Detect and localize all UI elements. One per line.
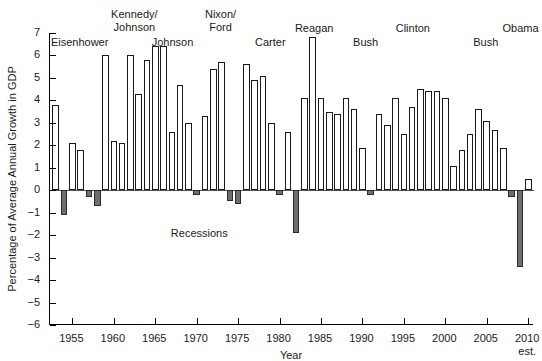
y-tick — [50, 235, 56, 236]
bar-1973 — [218, 62, 225, 190]
bar-1980 — [276, 190, 283, 194]
x-tick-label: 1970 — [183, 332, 207, 344]
x-tick — [155, 318, 156, 324]
y-tick-label: 2 — [34, 139, 40, 150]
bar-1979 — [268, 123, 275, 190]
x-tick-label: 1995 — [391, 332, 415, 344]
y-tick — [50, 303, 56, 304]
y-tick — [50, 100, 56, 101]
x-tick-label: 1985 — [308, 332, 332, 344]
era-label-clinton: Clinton — [396, 22, 430, 35]
y-tick-label: −1 — [27, 207, 40, 218]
y-tick — [50, 168, 56, 169]
era-label-line: Bush — [473, 36, 498, 49]
era-label-carter: Carter — [255, 36, 286, 49]
bar-1983 — [301, 98, 308, 190]
x-tick-label: 2010 — [515, 332, 539, 344]
era-label-johnson: Johnson — [152, 36, 194, 49]
bar-1957 — [86, 190, 93, 197]
bar-1990 — [359, 148, 366, 191]
x-tick — [280, 318, 281, 324]
bar-2000 — [442, 98, 449, 190]
x-tick — [197, 318, 198, 324]
bar-1985 — [318, 98, 325, 190]
bar-1982 — [293, 190, 300, 233]
x-tick — [321, 318, 322, 324]
y-tick — [50, 280, 56, 281]
bar-1987 — [334, 114, 341, 190]
x-tick-label: 2000 — [432, 332, 456, 344]
y-tick-label: 3 — [34, 117, 40, 128]
bar-1996 — [409, 107, 416, 190]
x-tick — [114, 318, 115, 324]
bar-1992 — [376, 114, 383, 190]
bar-1997 — [417, 89, 424, 190]
y-tick — [50, 213, 56, 214]
era-label-line: Nixon/ — [205, 8, 236, 21]
bar-2006 — [492, 130, 499, 191]
bar-1998 — [425, 91, 432, 190]
era-label-eisenhower: Eisenhower — [51, 36, 108, 49]
y-tick-label: 1 — [34, 162, 40, 173]
era-label-kennedy-johnson: Kennedy/Johnson — [111, 8, 157, 33]
x-tick-label: 1965 — [142, 332, 166, 344]
bar-2009 — [517, 190, 524, 266]
x-tick-label: 1980 — [266, 332, 290, 344]
bar-1989 — [351, 109, 358, 190]
y-tick — [50, 258, 56, 259]
x-tick-label: 1960 — [101, 332, 125, 344]
era-label-line: Obama — [503, 22, 539, 35]
era-label-line: Reagan — [295, 22, 334, 35]
bar-1953 — [52, 105, 59, 190]
bar-1962 — [127, 55, 134, 190]
bar-1971 — [202, 116, 209, 190]
bar-1977 — [251, 80, 258, 190]
bar-1981 — [285, 132, 292, 190]
y-tick-label: −5 — [27, 297, 40, 308]
y-tick — [50, 78, 56, 79]
bar-1994 — [392, 98, 399, 190]
bar-2001 — [450, 166, 457, 191]
bar-1999 — [434, 91, 441, 190]
bar-1975 — [235, 190, 242, 203]
bar-2010 — [525, 179, 532, 190]
y-tick-label: 4 — [34, 94, 40, 105]
bar-1955 — [69, 143, 76, 190]
bar-1967 — [169, 132, 176, 190]
x-axis-title: Year — [280, 349, 302, 361]
y-tick — [50, 55, 56, 56]
bar-1988 — [343, 98, 350, 190]
y-axis-title: Percentage of Average Annual Growth in G… — [6, 66, 18, 291]
x-tick-label: 2005 — [474, 332, 498, 344]
y-tick — [50, 325, 56, 326]
bar-1984 — [309, 37, 316, 190]
y-tick-label: 5 — [34, 72, 40, 83]
y-tick — [50, 33, 56, 34]
era-label-line: Bush — [353, 36, 378, 49]
y-tick-label: 6 — [34, 49, 40, 60]
y-tick — [50, 190, 56, 191]
y-tick-label: −3 — [27, 252, 40, 263]
y-tick-label: 7 — [34, 27, 40, 38]
bar-1986 — [326, 112, 333, 191]
plot-area — [49, 33, 533, 325]
era-label-bush: Bush — [353, 36, 378, 49]
bar-1964 — [144, 60, 151, 190]
x-tick — [238, 318, 239, 324]
bar-1965 — [152, 46, 159, 190]
y-tick — [50, 123, 56, 124]
bar-1978 — [260, 76, 267, 191]
x-tick — [362, 318, 363, 324]
bar-2005 — [483, 121, 490, 191]
x-tick-sublabel: est. — [518, 345, 536, 357]
era-label-obama: Obama — [503, 22, 539, 35]
x-tick-label: 1975 — [225, 332, 249, 344]
x-tick — [72, 318, 73, 324]
bar-1976 — [243, 64, 250, 190]
x-tick — [487, 318, 488, 324]
bar-1963 — [135, 94, 142, 191]
y-tick-label: −4 — [27, 274, 40, 285]
x-tick-label: 1955 — [59, 332, 83, 344]
bar-1956 — [77, 150, 84, 190]
